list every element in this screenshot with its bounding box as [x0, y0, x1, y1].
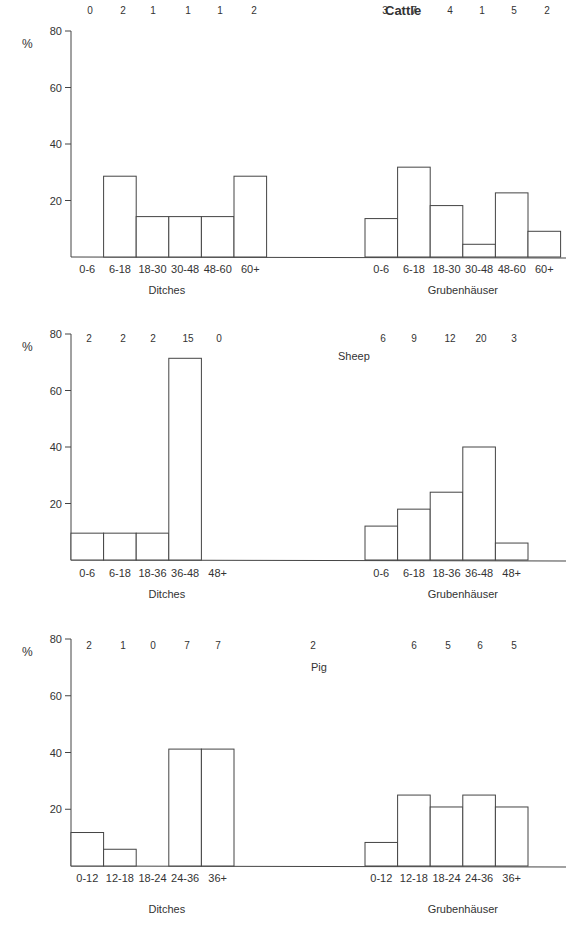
histogram-bar — [398, 167, 431, 257]
category-label: 0-6 — [79, 567, 95, 579]
sample-count: 0 — [87, 5, 93, 16]
histogram-bar — [71, 533, 104, 560]
histogram-bar — [398, 509, 431, 560]
category-label: 18-24 — [432, 872, 460, 884]
y-axis-label: % — [22, 645, 33, 659]
category-label: 36-48 — [171, 567, 199, 579]
histogram-bar — [463, 244, 496, 257]
category-label: 18-30 — [138, 263, 166, 275]
category-label: 48+ — [208, 567, 227, 579]
sample-count: 2 — [86, 333, 92, 344]
category-label: 12-18 — [400, 872, 428, 884]
y-tick-label: 60 — [50, 690, 62, 702]
histogram-bar — [430, 807, 463, 866]
category-label: 18-36 — [138, 567, 166, 579]
y-tick-label: 60 — [50, 385, 62, 397]
sample-count: 4 — [447, 5, 453, 16]
sample-count: 2 — [310, 640, 316, 651]
sample-count: 6 — [477, 640, 483, 651]
category-label: 48-60 — [498, 263, 526, 275]
sample-count: 2 — [86, 640, 92, 651]
y-tick-label: 40 — [50, 441, 62, 453]
sample-count: 2 — [120, 333, 126, 344]
histogram-bar — [495, 807, 528, 866]
chart-title: Sheep — [338, 350, 370, 362]
sample-count: 7 — [215, 640, 221, 651]
histogram-bar — [430, 206, 463, 257]
sample-count: 15 — [182, 333, 194, 344]
sample-count: 1 — [479, 5, 485, 16]
category-label: 12-18 — [106, 872, 134, 884]
y-tick-label: 80 — [50, 25, 62, 37]
sample-count: 5 — [511, 640, 517, 651]
category-label: 6-18 — [403, 567, 425, 579]
sample-count: 6 — [411, 640, 417, 651]
histogram-bar — [201, 217, 234, 257]
histogram-bar — [463, 447, 496, 560]
histogram-bar — [136, 217, 169, 257]
category-label: 0-6 — [373, 263, 389, 275]
category-label: 60+ — [535, 263, 554, 275]
category-label: 36+ — [208, 872, 227, 884]
sample-count: 5 — [511, 5, 517, 16]
sample-count: 1 — [185, 5, 191, 16]
bar-chart-figure: %80204060Cattle0-606-18218-30130-48148-6… — [0, 0, 588, 930]
sample-count: 2 — [150, 333, 156, 344]
category-label: 0-6 — [373, 567, 389, 579]
y-tick-label: 80 — [50, 328, 62, 340]
histogram-bar — [104, 849, 137, 866]
histogram-bar — [463, 795, 496, 866]
histogram-bar — [365, 219, 398, 257]
histogram-bar — [201, 749, 234, 866]
sample-count: 3 — [382, 5, 388, 16]
histogram-bar — [495, 193, 528, 257]
category-label: 6-18 — [109, 263, 131, 275]
histogram-bar — [104, 176, 137, 257]
category-label: 48+ — [502, 567, 521, 579]
y-tick-label: 20 — [50, 195, 62, 207]
histogram-bar — [234, 176, 267, 257]
group-label: Grubenhäuser — [428, 588, 499, 600]
group-label: Grubenhäuser — [428, 284, 499, 296]
sample-count: 6 — [380, 333, 386, 344]
group-label: Grubenhäuser — [428, 903, 499, 915]
category-label: 0-12 — [76, 872, 98, 884]
category-label: 24-36 — [171, 872, 199, 884]
histogram-bar — [365, 842, 398, 866]
category-label: 30-48 — [171, 263, 199, 275]
histogram-bar — [398, 795, 431, 866]
category-label: 18-36 — [432, 567, 460, 579]
histogram-bar — [136, 533, 169, 560]
sample-count: 1 — [217, 5, 223, 16]
sample-count: 1 — [150, 5, 156, 16]
group-label: Ditches — [148, 284, 185, 296]
category-label: 48-60 — [204, 263, 232, 275]
y-axis-label: % — [22, 37, 33, 51]
category-label: 18-24 — [138, 872, 166, 884]
category-label: 30-48 — [465, 263, 493, 275]
category-label: 0-6 — [79, 263, 95, 275]
sample-count: 20 — [475, 333, 487, 344]
histogram-bar — [169, 749, 202, 866]
sample-count: 0 — [150, 640, 156, 651]
category-label: 0-12 — [370, 872, 392, 884]
sample-count: 0 — [216, 333, 222, 344]
sample-count: 2 — [544, 5, 550, 16]
y-axis-label: % — [22, 340, 33, 354]
sample-count: 2 — [120, 5, 126, 16]
histogram-bar — [71, 833, 104, 866]
sample-count: 3 — [511, 333, 517, 344]
histogram-bar — [365, 526, 398, 560]
sample-count: 12 — [444, 333, 456, 344]
group-label: Ditches — [148, 588, 185, 600]
histogram-bar — [495, 543, 528, 560]
category-label: 18-30 — [432, 263, 460, 275]
y-tick-label: 40 — [50, 138, 62, 150]
group-label: Ditches — [148, 903, 185, 915]
sample-count: 1 — [120, 640, 126, 651]
histogram-bar — [104, 533, 137, 560]
y-tick-label: 20 — [50, 803, 62, 815]
category-label: 60+ — [241, 263, 260, 275]
sample-count: 7 — [184, 640, 190, 651]
category-label: 36-48 — [465, 567, 493, 579]
